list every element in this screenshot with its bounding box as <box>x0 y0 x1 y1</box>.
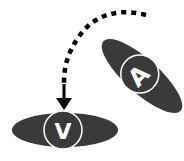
diagram-canvas: A V <box>0 0 184 161</box>
arrowhead-icon <box>56 98 72 110</box>
node-v-label: V <box>54 119 71 144</box>
